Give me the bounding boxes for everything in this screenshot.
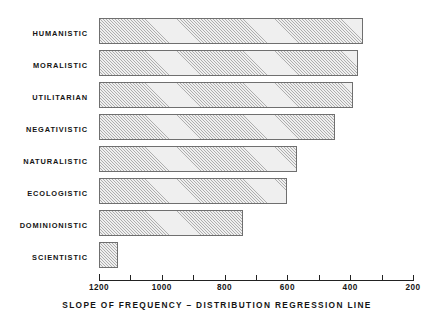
x-tick-400 <box>350 275 351 281</box>
category-label-humanistic: HUMANISTIC <box>33 27 88 41</box>
category-label-moralistic: MORALISTIC <box>33 59 88 73</box>
category-label-negativistic: NEGATIVISTIC <box>26 123 88 137</box>
bar-scientistic <box>99 242 118 268</box>
category-label-dominionistic: DOMINIONISTIC <box>20 219 88 233</box>
x-tick-200 <box>413 275 414 281</box>
category-axis-labels: HUMANISTIC MORALISTIC UTILITARIAN NEGATI… <box>0 18 95 274</box>
x-axis-title: SLOPE OF FREQUENCY – DISTRIBUTION REGRES… <box>0 300 434 310</box>
category-label-scientistic: SCIENTISTIC <box>32 251 88 265</box>
bar-ecologistic <box>99 178 287 204</box>
x-tick-1000 <box>162 275 163 281</box>
bar-chart: HUMANISTIC MORALISTIC UTILITARIAN NEGATI… <box>0 0 434 328</box>
x-tick-600 <box>287 275 288 281</box>
x-tick-800 <box>225 275 226 281</box>
x-minor-tick-900 <box>193 275 194 280</box>
category-label-utilitarian: UTILITARIAN <box>32 91 88 105</box>
x-tick-label-1200: 1200 <box>89 283 109 292</box>
bar-utilitarian <box>99 82 353 108</box>
plot-area <box>99 18 413 274</box>
category-label-ecologistic: ECOLOGISTIC <box>27 187 88 201</box>
category-label-naturalistic: NATURALISTIC <box>23 155 88 169</box>
x-minor-tick-700 <box>256 275 257 280</box>
bar-moralistic <box>99 50 358 76</box>
x-tick-label-1000: 1000 <box>152 283 172 292</box>
x-tick-label-800: 800 <box>217 283 232 292</box>
bar-humanistic <box>99 18 363 44</box>
x-tick-label-600: 600 <box>280 283 295 292</box>
x-axis-line <box>99 280 414 281</box>
bar-dominionistic <box>99 210 243 236</box>
x-minor-tick-300 <box>382 275 383 280</box>
x-minor-tick-500 <box>319 275 320 280</box>
bar-negativistic <box>99 114 335 140</box>
x-tick-1200 <box>99 275 100 281</box>
bar-naturalistic <box>99 146 297 172</box>
x-minor-tick-1100 <box>130 275 131 280</box>
x-tick-label-200: 200 <box>405 283 420 292</box>
x-tick-label-400: 400 <box>343 283 358 292</box>
